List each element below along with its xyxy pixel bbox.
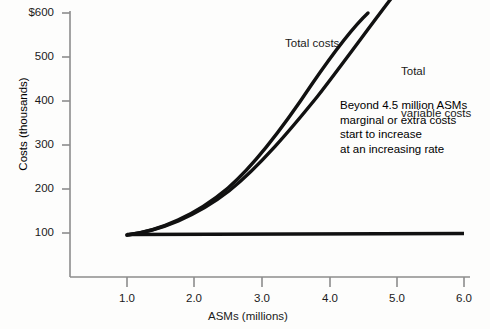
marginal-cost-note-line1: Beyond 4.5 million ASMs <box>340 98 467 113</box>
x-tick-label-2: 2.0 <box>174 292 214 304</box>
y-tick-label-100: 100 <box>8 226 54 238</box>
y-tick-label-600: $600 <box>8 6 54 18</box>
series-total-fixed-costs-line <box>127 234 464 235</box>
x-tick-label-4: 4.0 <box>310 292 350 304</box>
marginal-cost-note-line4: at an increasing rate <box>340 142 467 157</box>
total-costs-label: Total costs <box>285 36 339 50</box>
x-tick-label-1: 1.0 <box>107 292 147 304</box>
x-axis-ticks <box>127 277 464 287</box>
marginal-cost-note-line2: marginal or extra costs <box>340 113 467 128</box>
cost-behavior-chart: $600 500 400 300 200 100 Costs (thousand… <box>0 0 490 329</box>
y-tick-label-400: 400 <box>8 94 54 106</box>
y-axis-title: Costs (thousands) <box>17 54 29 194</box>
total-variable-costs-label-line1: Total <box>401 64 471 78</box>
y-tick-label-200: 200 <box>8 182 54 194</box>
y-axis-ticks <box>62 13 70 233</box>
x-tick-label-5: 5.0 <box>377 292 417 304</box>
y-tick-label-500: 500 <box>8 50 54 62</box>
marginal-cost-note-line3: start to increase <box>340 127 467 142</box>
y-axis-title-text: Costs (thousands) <box>17 77 29 170</box>
x-tick-label-6: 6.0 <box>444 292 484 304</box>
marginal-cost-note: Beyond 4.5 million ASMs marginal or extr… <box>340 98 467 156</box>
y-tick-label-300: 300 <box>8 138 54 150</box>
x-axis-title: ASMs (millions) <box>208 310 288 322</box>
x-tick-label-3: 3.0 <box>242 292 282 304</box>
